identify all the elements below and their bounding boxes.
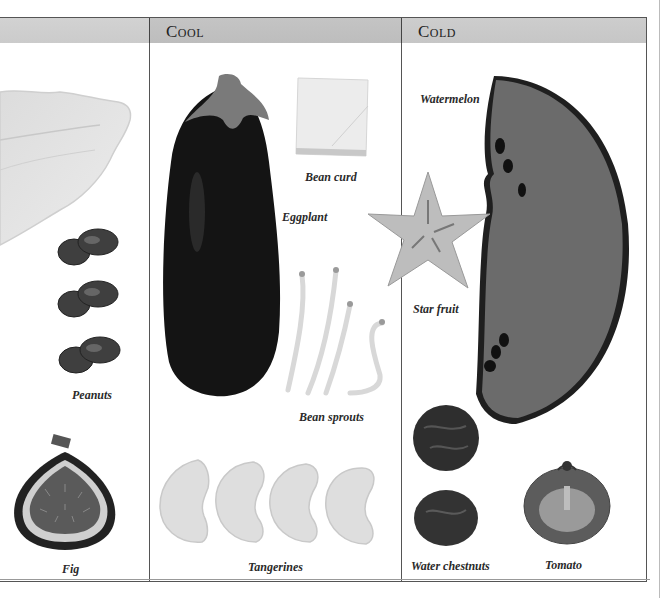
- header-cell-cold: Cold: [401, 18, 647, 43]
- caption-peanuts: Peanuts: [72, 388, 112, 403]
- watermelon-image: [476, 74, 636, 426]
- column-divider-1: [149, 43, 150, 582]
- water-chestnuts-image: [410, 404, 482, 552]
- header-label-cool: Cool: [166, 22, 204, 42]
- star-fruit-image: [368, 170, 492, 294]
- bean-curd-image: [292, 76, 372, 160]
- page-edge: [659, 0, 660, 598]
- eggplant-image: [157, 72, 285, 400]
- fig-image: [10, 434, 120, 556]
- caption-watermelon: Watermelon: [420, 92, 480, 107]
- header-label-cold: Cold: [418, 22, 456, 42]
- table-bottom-rule: [0, 581, 647, 582]
- header-cell-cool: Cool: [149, 18, 401, 43]
- caption-bean-sprouts: Bean sprouts: [299, 410, 364, 425]
- caption-bean-curd: Bean curd: [305, 170, 357, 185]
- table-header-row: Cool Cold: [0, 17, 647, 43]
- caption-water-chestnuts: Water chestnuts: [411, 559, 490, 574]
- caption-tomato: Tomato: [545, 558, 582, 573]
- caption-tangerines: Tangerines: [248, 560, 303, 575]
- caption-star-fruit: Star fruit: [413, 302, 459, 317]
- caption-fig: Fig: [62, 562, 79, 577]
- tomato-image: [522, 456, 612, 546]
- header-cell-left: [0, 18, 149, 43]
- caption-eggplant: Eggplant: [282, 210, 327, 225]
- column-divider-right: [646, 43, 647, 582]
- page-rule: [0, 579, 650, 580]
- peanuts-image: [52, 222, 127, 382]
- column-divider-2: [401, 43, 402, 582]
- tangerines-image: [158, 458, 388, 548]
